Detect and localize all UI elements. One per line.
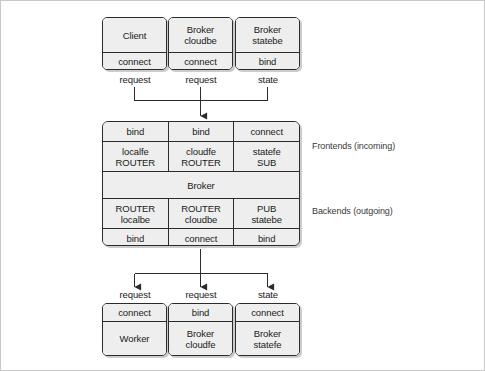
broker-backend-bind-cloud: connect — [168, 229, 234, 246]
node-client[interactable]: Client connect — [102, 17, 167, 70]
broker-socket-cloudfe: cloudfe ROUTER — [168, 142, 234, 171]
node-client-action: connect — [103, 52, 166, 69]
node-broker-cloudfe-title: Broker cloudfe — [169, 321, 232, 355]
annotation-frontends: Frontends (incoming) — [312, 141, 395, 152]
broker-core-label: Broker — [103, 172, 299, 198]
broker-block[interactable]: bind bind connect localfe ROUTER cloudfe… — [102, 121, 300, 246]
annotation-backends: Backends (outgoing) — [312, 206, 393, 217]
edge-label-bottom-state: state — [238, 289, 298, 300]
broker-backend-bind-row: bind connect bind — [103, 228, 299, 246]
node-worker[interactable]: connect Worker — [102, 303, 167, 356]
node-broker-cloudbe-action: connect — [169, 52, 232, 69]
node-broker-cloudfe-action: bind — [169, 304, 232, 321]
broker-socket-localbe: ROUTER localbe — [103, 199, 168, 228]
broker-core-row: Broker — [103, 171, 299, 198]
broker-frontend-bind-state: connect — [233, 122, 299, 141]
broker-frontend-bind-row: bind bind connect — [103, 122, 299, 141]
broker-backend-bind-state: bind — [233, 229, 299, 246]
edge-label-bottom-request-2: request — [171, 289, 231, 300]
broker-frontend-socket-row: localfe ROUTER cloudfe ROUTER statefe SU… — [103, 141, 299, 171]
edge-label-top-request-1: request — [105, 74, 165, 85]
broker-frontend-bind-local: bind — [103, 122, 168, 141]
node-broker-cloudfe[interactable]: bind Broker cloudfe — [168, 303, 233, 356]
node-broker-cloudbe-title: Broker cloudbe — [169, 18, 232, 52]
node-broker-statefe-title: Broker statefe — [236, 321, 299, 355]
broker-frontend-bind-cloud: bind — [168, 122, 234, 141]
broker-backend-socket-row: ROUTER localbe ROUTER cloudbe PUB stateb… — [103, 198, 299, 228]
node-broker-cloudbe[interactable]: Broker cloudbe connect — [168, 17, 233, 70]
broker-socket-statefe: statefe SUB — [233, 142, 299, 171]
broker-backend-bind-local: bind — [103, 229, 168, 246]
node-broker-statefe-action: connect — [236, 304, 299, 321]
node-broker-statebe-action: bind — [236, 52, 299, 69]
broker-socket-cloudbe: ROUTER cloudbe — [168, 199, 234, 228]
node-worker-action: connect — [103, 304, 166, 321]
node-broker-statebe-title: Broker statebe — [236, 18, 299, 52]
node-broker-statebe[interactable]: Broker statebe bind — [235, 17, 300, 70]
edge-label-top-state: state — [238, 74, 298, 85]
node-worker-title: Worker — [103, 321, 166, 355]
edge-label-bottom-request-1: request — [105, 289, 165, 300]
node-client-title: Client — [103, 18, 166, 52]
broker-socket-localfe: localfe ROUTER — [103, 142, 168, 171]
diagram-canvas: Client connect Broker cloudbe connect Br… — [0, 0, 485, 371]
broker-socket-statebe: PUB statebe — [233, 199, 299, 228]
node-broker-statefe[interactable]: connect Broker statefe — [235, 303, 300, 356]
edge-label-top-request-2: request — [171, 74, 231, 85]
